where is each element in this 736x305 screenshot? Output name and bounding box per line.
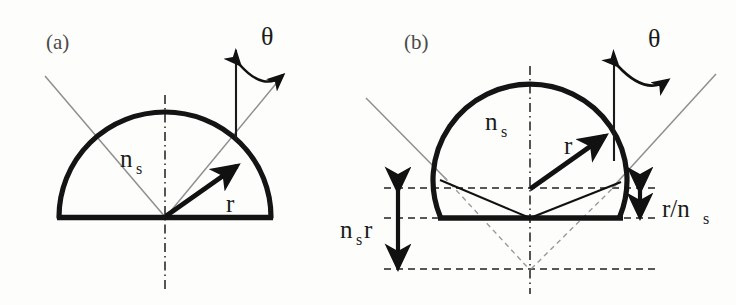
ns-sub-a: s bbox=[136, 160, 142, 177]
r-over-ns-base: r/n bbox=[662, 195, 690, 222]
label-theta-b: θ bbox=[648, 24, 660, 53]
ray-right-a bbox=[165, 74, 284, 218]
panel-b-label: (b) bbox=[404, 30, 429, 54]
figure-root: (a) n s r θ bbox=[0, 0, 736, 305]
r-over-ns-sub: s bbox=[703, 210, 709, 227]
theta-arc-b bbox=[618, 66, 668, 86]
ns-r-sub: s bbox=[356, 231, 362, 248]
ns-base-b: n bbox=[485, 108, 498, 135]
internal-ray-left-b bbox=[440, 180, 530, 218]
label-r-b: r bbox=[564, 132, 573, 159]
label-r-over-ns: r/n s bbox=[662, 195, 709, 227]
optics-diagram-svg: (a) n s r θ bbox=[0, 0, 736, 305]
panel-a: (a) n s r θ bbox=[45, 22, 284, 292]
virtual-ray-right-b bbox=[530, 183, 618, 270]
virtual-ray-left-b bbox=[444, 177, 530, 270]
label-ns-r: n s r bbox=[340, 216, 373, 248]
ns-r-suffix: r bbox=[364, 216, 373, 243]
theta-arc-a bbox=[240, 65, 283, 82]
ns-r-base: n bbox=[340, 216, 353, 243]
panel-b: (b) n s r θ n s r r/n s bbox=[340, 24, 716, 294]
panel-a-label: (a) bbox=[46, 30, 69, 54]
ns-sub-b: s bbox=[501, 123, 507, 140]
label-theta-a: θ bbox=[261, 22, 273, 51]
ns-base-a: n bbox=[120, 145, 133, 172]
label-r-a: r bbox=[226, 190, 235, 217]
label-ns-b: n s bbox=[485, 108, 507, 140]
label-ns-a: n s bbox=[120, 145, 142, 177]
